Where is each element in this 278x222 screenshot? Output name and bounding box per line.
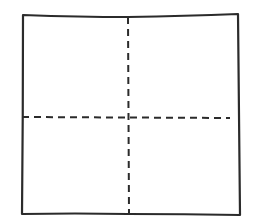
- quadrant-diagram: [0, 0, 278, 222]
- quadrant-bottom-right: [129, 118, 239, 214]
- quadrant-top-left: [23, 16, 128, 117]
- quadrant-top-right: [129, 16, 239, 117]
- quadrant-bottom-left: [23, 118, 128, 214]
